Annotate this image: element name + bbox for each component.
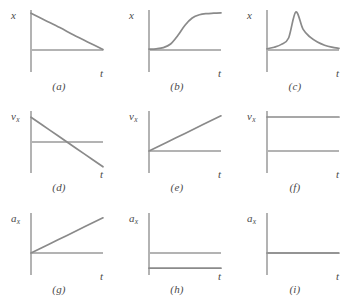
y-axis-label-subscript-i: x <box>253 217 256 226</box>
panel-d: vxt(d) <box>0 101 118 202</box>
data-curve <box>267 12 339 49</box>
y-axis-label-base-b: x <box>129 9 134 21</box>
x-axis-label-a: t <box>100 68 103 79</box>
plot-area-c: xt <box>245 6 345 78</box>
panel-h: axt(h) <box>118 203 236 304</box>
y-axis-label-subscript-g: x <box>17 217 20 226</box>
plot-area-b: xt <box>127 6 227 78</box>
panel-i: axt(i) <box>236 203 354 304</box>
y-axis-label-base-a: x <box>11 9 16 21</box>
x-axis-label-f: t <box>336 169 339 180</box>
y-axis-label-subscript-f: x <box>252 115 255 124</box>
panel-caption-i: (i) <box>290 283 301 295</box>
y-axis-label-subscript-d: x <box>16 115 19 124</box>
x-axis-label-b: t <box>218 68 221 79</box>
panel-caption-e: (e) <box>171 181 184 193</box>
panel-caption-g: (g) <box>52 283 65 295</box>
y-axis-label-base-g: a <box>11 212 17 224</box>
plot-area-i: axt <box>245 209 345 281</box>
y-axis-label-f: vx <box>247 111 255 122</box>
panel-f: vxt(f) <box>236 101 354 202</box>
data-curve <box>31 217 103 252</box>
data-curve <box>149 13 221 49</box>
x-axis-label-g: t <box>100 271 103 282</box>
figure-grid: xt(a)xt(b)xt(c)vxt(d)vxt(e)vxt(f)axt(g)a… <box>0 0 354 304</box>
y-axis-label-a: x <box>11 10 16 21</box>
panel-caption-d: (d) <box>52 181 65 193</box>
data-curve <box>31 13 103 49</box>
panel-caption-a: (a) <box>52 80 65 92</box>
x-axis-label-c: t <box>336 68 339 79</box>
panel-caption-f: (f) <box>290 181 301 193</box>
panel-caption-h: (h) <box>170 283 183 295</box>
panel-caption-b: (b) <box>170 80 183 92</box>
y-axis-label-base-c: x <box>247 9 252 21</box>
plot-area-f: vxt <box>245 107 345 179</box>
y-axis-label-e: vx <box>129 111 137 122</box>
panel-a: xt(a) <box>0 0 118 101</box>
plot-area-h: axt <box>127 209 227 281</box>
x-axis-label-i: t <box>336 271 339 282</box>
panel-e: vxt(e) <box>118 101 236 202</box>
y-axis-label-base-h: a <box>129 212 135 224</box>
plot-area-e: vxt <box>127 107 227 179</box>
x-axis-label-d: t <box>100 169 103 180</box>
y-axis-label-subscript-e: x <box>134 115 137 124</box>
y-axis-label-g: ax <box>11 213 20 224</box>
panel-c: xt(c) <box>236 0 354 101</box>
plot-area-g: axt <box>9 209 109 281</box>
panel-g: axt(g) <box>0 203 118 304</box>
data-curve <box>149 116 221 151</box>
y-axis-label-c: x <box>247 10 252 21</box>
x-axis-label-e: t <box>218 169 221 180</box>
y-axis-label-subscript-h: x <box>135 217 138 226</box>
y-axis-label-b: x <box>129 10 134 21</box>
y-axis-label-i: ax <box>247 213 256 224</box>
x-axis-label-h: t <box>218 271 221 282</box>
plot-area-a: xt <box>9 6 109 78</box>
y-axis-label-h: ax <box>129 213 138 224</box>
y-axis-label-base-i: a <box>247 212 253 224</box>
plot-area-d: vxt <box>9 107 109 179</box>
panel-b: xt(b) <box>118 0 236 101</box>
y-axis-label-d: vx <box>11 111 19 122</box>
panel-caption-c: (c) <box>289 80 302 92</box>
